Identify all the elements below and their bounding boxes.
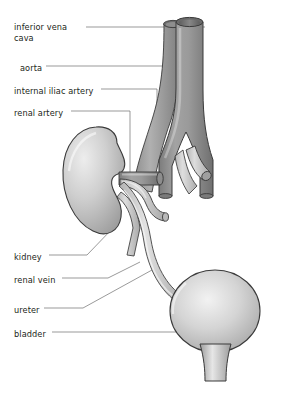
label-renal-artery: renal artery [14, 108, 63, 119]
label-aorta: aorta [20, 63, 42, 74]
bladder-structure [170, 270, 260, 352]
label-inferior-vena-cava: inferior vena cava [14, 22, 84, 43]
urethra-structure [200, 344, 231, 381]
label-internal-iliac-artery: internal iliac artery [14, 86, 94, 97]
label-renal-vein: renal vein [14, 275, 55, 286]
label-bladder: bladder [14, 329, 46, 340]
label-ureter: ureter [14, 305, 40, 316]
label-kidney: kidney [14, 252, 42, 263]
